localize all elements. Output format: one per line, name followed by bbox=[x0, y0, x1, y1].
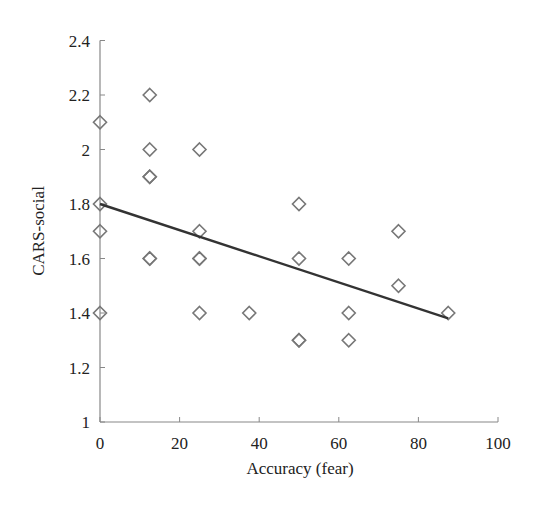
diamond-marker bbox=[193, 252, 206, 265]
diamond-marker bbox=[193, 252, 206, 265]
diamond-marker bbox=[293, 334, 306, 347]
diamond-marker bbox=[143, 89, 156, 102]
y-tick-label: 1 bbox=[82, 413, 91, 432]
diamond-marker bbox=[293, 198, 306, 211]
diamond-marker bbox=[342, 307, 355, 320]
y-tick-label: 1.2 bbox=[69, 359, 90, 378]
axis-labels: 11.21.41.61.822.22.4020406080100Accuracy… bbox=[29, 32, 511, 479]
diamond-marker bbox=[392, 279, 405, 292]
x-tick-label: 20 bbox=[171, 434, 188, 453]
diamond-marker bbox=[342, 334, 355, 347]
diamond-marker bbox=[143, 252, 156, 265]
y-tick-label: 2.4 bbox=[69, 32, 91, 51]
y-tick-label: 1.4 bbox=[69, 304, 91, 323]
regression-line bbox=[100, 204, 448, 318]
data-points bbox=[94, 89, 455, 347]
diamond-marker bbox=[143, 170, 156, 183]
diamond-marker bbox=[293, 252, 306, 265]
x-tick-label: 80 bbox=[410, 434, 427, 453]
x-axis-title: Accuracy (fear) bbox=[246, 459, 353, 478]
trendline bbox=[100, 204, 448, 318]
x-tick-label: 0 bbox=[96, 434, 105, 453]
x-tick-label: 100 bbox=[485, 434, 511, 453]
diamond-marker bbox=[193, 143, 206, 156]
diamond-marker bbox=[193, 307, 206, 320]
y-tick-label: 2.2 bbox=[69, 86, 90, 105]
x-tick-label: 40 bbox=[251, 434, 268, 453]
diamond-marker bbox=[143, 252, 156, 265]
diamond-marker bbox=[143, 143, 156, 156]
diamond-marker bbox=[293, 334, 306, 347]
diamond-marker bbox=[143, 170, 156, 183]
y-axis-title: CARS-social bbox=[29, 186, 48, 276]
diamond-marker bbox=[243, 307, 256, 320]
y-tick-label: 1.6 bbox=[69, 250, 90, 269]
x-tick-label: 60 bbox=[330, 434, 347, 453]
y-tick-label: 2 bbox=[82, 141, 91, 160]
scatter-chart: 11.21.41.61.822.22.4020406080100Accuracy… bbox=[0, 0, 550, 505]
axes bbox=[100, 41, 498, 423]
y-tick-label: 1.8 bbox=[69, 195, 90, 214]
diamond-marker bbox=[342, 252, 355, 265]
diamond-marker bbox=[392, 225, 405, 238]
